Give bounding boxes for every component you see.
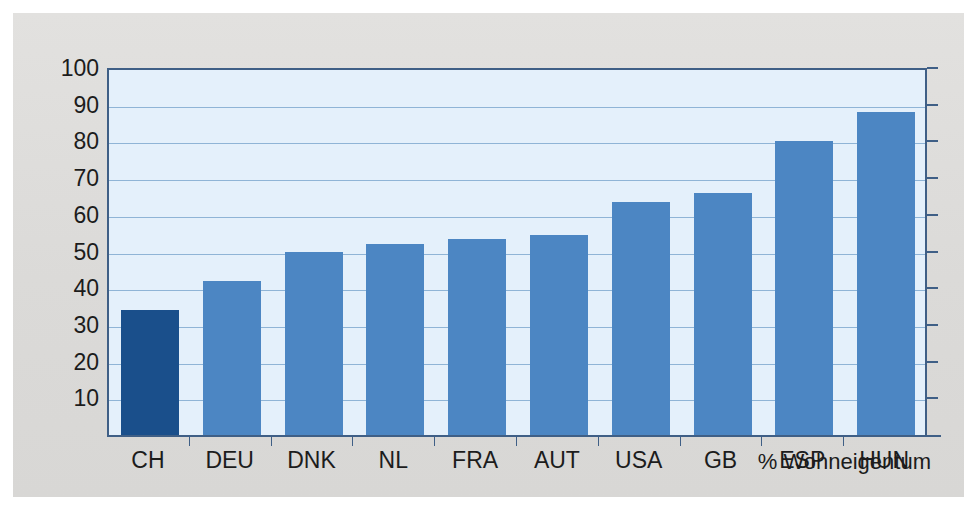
bar-fra [448, 239, 506, 435]
right-axis-tick [927, 397, 938, 399]
y-axis-tick-label: 10 [29, 387, 99, 410]
y-axis-tick-label: 60 [29, 203, 99, 226]
x-axis-label-gb: GB [680, 449, 762, 472]
y-axis-tick-label: 70 [29, 167, 99, 190]
bar-hun [857, 112, 915, 435]
y-axis-tick-labels: 100908070605040302010 [23, 68, 99, 435]
y-axis-tick-label: 50 [29, 240, 99, 263]
right-axis-tick [927, 214, 938, 216]
bar-aut [530, 235, 588, 435]
x-axis-label-deu: DEU [189, 449, 271, 472]
y-axis-tick-label: 90 [29, 93, 99, 116]
gridline [109, 107, 925, 108]
right-axis-tick [927, 324, 938, 326]
x-axis-line [107, 435, 941, 437]
y-axis-tick-label: 100 [29, 57, 99, 80]
bar-ch [121, 310, 179, 435]
right-axis-tick [927, 140, 938, 142]
plot-inner [109, 70, 925, 435]
right-axis-tick [927, 104, 938, 106]
x-axis-label-fra: FRA [434, 449, 516, 472]
x-axis-label-ch: CH [107, 449, 189, 472]
right-axis-tick [927, 361, 938, 363]
x-axis-tick [843, 435, 844, 446]
x-axis-tick [352, 435, 353, 446]
bar-dnk [285, 252, 343, 436]
x-axis-tick [516, 435, 517, 446]
chart-figure: 100908070605040302010 CHDEUDNKNLFRAAUTUS… [0, 0, 977, 517]
y-axis-tick-label: 40 [29, 277, 99, 300]
x-axis-label-dnk: DNK [271, 449, 353, 472]
chart-caption: % Wohneigentum [758, 449, 931, 475]
right-axis-tick [927, 251, 938, 253]
x-axis-label-nl: NL [352, 449, 434, 472]
plot-area [107, 68, 925, 435]
right-axis-tick [927, 177, 938, 179]
bar-esp [775, 141, 833, 435]
bar-deu [203, 281, 261, 435]
x-axis-tick [761, 435, 762, 446]
x-axis-tick [271, 435, 272, 446]
bar-nl [366, 244, 424, 435]
y-axis-tick-label: 80 [29, 130, 99, 153]
x-axis-tick [680, 435, 681, 446]
x-axis-label-aut: AUT [516, 449, 598, 472]
bar-gb [694, 193, 752, 435]
y-axis-tick-label: 20 [29, 350, 99, 373]
bar-usa [612, 202, 670, 435]
x-axis-tick [598, 435, 599, 446]
right-axis-tick [927, 67, 938, 69]
x-axis-tick [189, 435, 190, 446]
chart-panel: 100908070605040302010 CHDEUDNKNLFRAAUTUS… [13, 13, 964, 497]
right-axis-ticks [925, 68, 941, 437]
y-axis-tick-label: 30 [29, 313, 99, 336]
x-axis-tick [434, 435, 435, 446]
x-axis-label-usa: USA [598, 449, 680, 472]
right-axis-tick [927, 287, 938, 289]
